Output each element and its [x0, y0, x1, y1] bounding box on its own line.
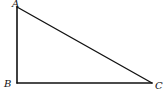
edge-ca: [17, 7, 152, 83]
triangle-diagram: A B C: [0, 0, 168, 97]
vertex-label-a: A: [11, 0, 19, 9]
vertex-label-b: B: [3, 78, 11, 89]
vertex-label-c: C: [155, 80, 163, 91]
